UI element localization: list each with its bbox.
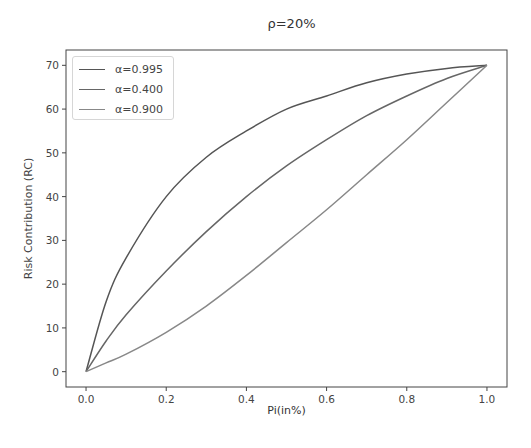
legend-line-icon [79,109,105,110]
legend-item-alpha-0900: α=0.900 [73,100,173,119]
y-tick-label: 10 [46,322,59,334]
y-axis-label: Risk Contribution (RC) [22,139,35,299]
y-tick-label: 30 [46,234,59,246]
y-tick-label: 40 [46,191,59,203]
y-tick-label: 60 [46,103,59,115]
x-axis-label: Pi(in%) [66,404,507,417]
y-tick-label: 20 [46,278,59,290]
y-axis-ticks: 010203040506070 [46,59,66,377]
y-tick-label: 0 [52,366,59,378]
legend-label: α=0.900 [115,103,163,116]
legend-item-alpha-0995: α=0.995 [73,60,173,79]
x-axis-ticks: 0.00.20.40.60.81.0 [78,387,496,405]
y-tick-label: 50 [46,147,59,159]
legend: α=0.995 α=0.400 α=0.900 [72,56,174,120]
legend-line-icon [79,69,105,70]
chart-title: ρ=20% [0,16,531,31]
legend-line-icon [79,89,105,90]
legend-label: α=0.995 [115,63,163,76]
legend-label: α=0.400 [115,83,163,96]
y-tick-label: 70 [46,59,59,71]
legend-item-alpha-0400: α=0.400 [73,80,173,99]
